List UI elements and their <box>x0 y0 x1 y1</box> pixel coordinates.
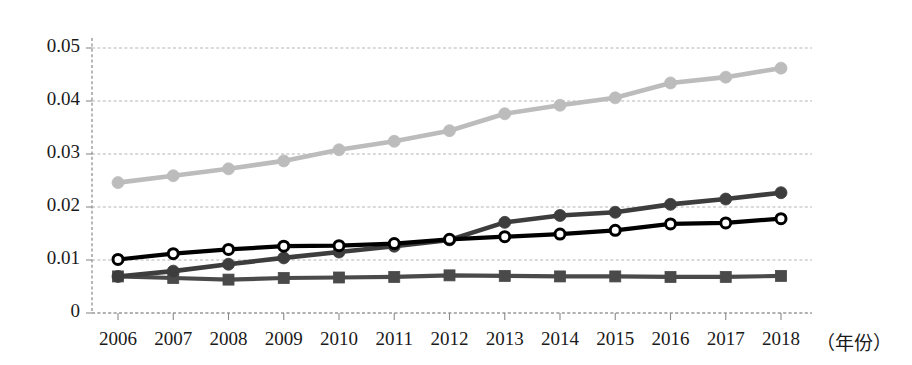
series-marker-square <box>665 271 676 282</box>
x-axis-tick-label: 2008 <box>201 328 257 350</box>
data-series <box>113 214 786 265</box>
series-marker-circle <box>444 125 456 137</box>
series-marker-open-circle <box>776 214 786 224</box>
series-marker-square <box>720 271 731 282</box>
y-axis-tick-label: 0 <box>71 300 81 322</box>
x-axis-tick-label: 2016 <box>643 328 699 350</box>
series-marker-circle <box>720 71 732 83</box>
series-marker-open-circle <box>500 232 510 242</box>
series-marker-circle <box>278 155 290 167</box>
series-marker-circle <box>388 135 400 147</box>
data-series <box>112 62 787 188</box>
series-marker-square <box>278 273 289 284</box>
series-marker-square <box>776 270 787 281</box>
series-marker-open-circle <box>445 234 455 244</box>
series-marker-circle <box>278 252 290 264</box>
series-marker-circle <box>499 216 511 228</box>
x-axis-unit-label: （年份） <box>816 328 892 355</box>
plot-area <box>0 0 912 365</box>
x-axis-tick-label: 2015 <box>587 328 643 350</box>
series-marker-square <box>334 272 345 283</box>
series-marker-circle <box>112 177 124 189</box>
series-marker-circle <box>665 198 677 210</box>
series-marker-circle <box>609 92 621 104</box>
x-axis-tick-label: 2007 <box>145 328 201 350</box>
y-axis-tick-label: 0.05 <box>47 35 80 57</box>
y-axis-tick-label: 0.03 <box>47 141 80 163</box>
data-series-group <box>112 62 787 285</box>
x-axis-tick-label: 2011 <box>366 328 422 350</box>
series-marker-open-circle <box>168 249 178 259</box>
series-marker-open-circle <box>279 241 289 251</box>
x-axis-tick-label: 2014 <box>532 328 588 350</box>
x-axis-tick-label: 2010 <box>311 328 367 350</box>
series-marker-circle <box>554 209 566 221</box>
series-marker-circle <box>223 163 235 175</box>
x-axis-tick-label: 2012 <box>422 328 478 350</box>
series-marker-circle <box>665 77 677 89</box>
line-chart: 0.050.040.030.020.010 200620072008200920… <box>0 0 912 365</box>
series-marker-open-circle <box>389 239 399 249</box>
series-marker-circle <box>609 206 621 218</box>
series-marker-square <box>610 271 621 282</box>
y-axis-tick-label: 0.01 <box>47 247 80 269</box>
y-axis-tick-label: 0.04 <box>47 88 80 110</box>
x-axis-ticks <box>118 313 781 320</box>
series-marker-circle <box>499 108 511 120</box>
series-marker-open-circle <box>224 244 234 254</box>
series-marker-circle <box>775 187 787 199</box>
x-axis-tick-label: 2006 <box>90 328 146 350</box>
series-marker-circle <box>167 265 179 277</box>
series-marker-circle <box>333 144 345 156</box>
x-axis-tick-label: 2013 <box>477 328 533 350</box>
y-axis-tick-label: 0.02 <box>47 194 80 216</box>
series-marker-circle <box>223 258 235 270</box>
series-marker-open-circle <box>555 229 565 239</box>
series-marker-open-circle <box>721 218 731 228</box>
series-marker-circle <box>554 99 566 111</box>
series-marker-square <box>444 270 455 281</box>
data-series <box>113 270 787 285</box>
series-marker-open-circle <box>334 241 344 251</box>
series-marker-open-circle <box>610 225 620 235</box>
series-marker-circle <box>775 62 787 74</box>
series-marker-open-circle <box>666 219 676 229</box>
series-marker-circle <box>112 270 124 282</box>
x-axis-tick-label: 2017 <box>698 328 754 350</box>
series-marker-square <box>223 274 234 285</box>
series-marker-circle <box>720 193 732 205</box>
series-marker-square <box>555 271 566 282</box>
series-marker-circle <box>167 170 179 182</box>
x-axis-tick-label: 2009 <box>256 328 312 350</box>
series-marker-square <box>389 271 400 282</box>
series-marker-square <box>499 270 510 281</box>
x-axis-tick-label: 2018 <box>753 328 809 350</box>
series-marker-open-circle <box>113 254 123 264</box>
